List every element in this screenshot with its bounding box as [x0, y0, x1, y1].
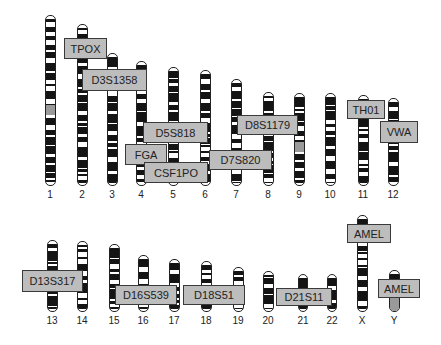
chromosome-band [46, 137, 55, 145]
chromosome-label: 21 [293, 315, 313, 326]
chromosome-band [358, 280, 367, 287]
chromosome-band [139, 272, 148, 279]
chromosome-band [264, 182, 273, 183]
chromosome-band [46, 118, 55, 125]
chromosome-label: 16 [133, 315, 153, 326]
str-locus-label: D21S11 [276, 288, 332, 306]
chromosome-band [46, 84, 55, 86]
chromosome-band [169, 144, 178, 150]
chromosome-label: 9 [289, 189, 309, 200]
chromosome-band [326, 182, 335, 183]
chromosome-1 [45, 15, 56, 186]
chromosome-band [359, 168, 368, 172]
chromosome-band [108, 162, 117, 171]
chromosome-band [78, 298, 87, 300]
chromosome-band [169, 105, 178, 110]
chromosome-band [234, 271, 243, 275]
chromosome-band [46, 165, 55, 172]
chromosome-band [295, 171, 304, 178]
chromosome-band [139, 307, 148, 309]
chromosome-band [169, 79, 178, 83]
chromosome-band [201, 145, 210, 147]
str-locus-label: D3S1358 [82, 69, 147, 91]
chromosome-band [108, 174, 117, 183]
chromosome-band [264, 136, 273, 141]
chromosome-band [264, 275, 273, 277]
chromosome-band [110, 248, 119, 258]
chromosome-band [232, 83, 241, 87]
chromosome-band [48, 251, 57, 261]
chromosome-band [201, 113, 210, 118]
chromosome-band [78, 160, 87, 168]
str-locus-label: D5S818 [143, 122, 208, 143]
chromosome-band [46, 146, 55, 154]
chromosome-band [108, 57, 117, 67]
chromosome-band [389, 102, 398, 107]
chromosome-band [328, 278, 336, 286]
chromosome-band [170, 305, 179, 309]
str-locus-label: TPOX [64, 38, 107, 59]
chromosome-label: 19 [228, 315, 248, 326]
chromosome-band [358, 252, 367, 254]
chromosome-band [202, 279, 211, 283]
chromosome-band [110, 274, 119, 280]
chromosome-band [108, 114, 117, 123]
chromosome-band [299, 278, 307, 288]
str-locus-label: D18S51 [183, 285, 245, 305]
chromosome-band [264, 96, 273, 98]
chromosome-label: 3 [102, 189, 122, 200]
chromosome-band [358, 306, 367, 309]
chromosome-band [358, 268, 367, 276]
chromosome-band [234, 308, 243, 309]
chromosome-band [264, 308, 273, 309]
chromosome-band [359, 142, 368, 151]
chromosome-band [48, 307, 57, 309]
chromosome-label: Y [384, 315, 404, 326]
chromosome-band [326, 161, 335, 169]
chromosome-band [359, 134, 368, 138]
chromosome-band [234, 277, 243, 281]
chromosome-band [169, 93, 178, 102]
chromosome-8 [263, 92, 274, 186]
chromosome-band [202, 273, 211, 275]
chromosome-20 [263, 271, 274, 312]
chromosome-band [48, 262, 57, 264]
chromosome-band [110, 307, 119, 309]
chromosome-band [264, 278, 273, 284]
chromosome-band [110, 259, 119, 264]
chromosome-band [264, 101, 273, 111]
chromosome-label: 11 [353, 189, 373, 200]
chromosome-label: 6 [195, 189, 215, 200]
str-locus-label: VWA [380, 121, 418, 143]
chromosome-band [359, 129, 368, 131]
chromosome-band [169, 151, 178, 153]
chromosome-band [78, 169, 87, 172]
chromosome-band [201, 92, 210, 99]
chromosome-band [78, 28, 87, 30]
chromosome-band [358, 258, 367, 260]
chromosome-band [295, 97, 304, 107]
chromosome-band [137, 94, 146, 99]
chromosome-band [110, 269, 119, 272]
chromosome-band [201, 84, 210, 90]
str-locus-label: D16S539 [115, 285, 177, 305]
chromosome-label: 22 [322, 315, 342, 326]
chromosome-band [78, 123, 87, 126]
chromosome-band [389, 177, 398, 182]
str-locus-label: TH01 [347, 100, 385, 119]
chromosome-band [46, 19, 55, 22]
chromosome-band [108, 143, 117, 147]
chromosome-label: 20 [258, 315, 278, 326]
str-locus-label: D8S1179 [237, 115, 298, 135]
chromosome-band [78, 103, 87, 111]
chromosome-band [326, 137, 335, 146]
chromosome-band [326, 106, 335, 110]
chromosome-band [46, 27, 55, 32]
chromosome-band [295, 154, 304, 160]
chromosome-band [170, 274, 179, 283]
chromosome-band [389, 146, 398, 150]
str-locus-label: AMEL [347, 224, 391, 243]
chromosome-band [264, 174, 273, 178]
chromosome-band [78, 245, 87, 247]
chromosome-band [232, 101, 241, 108]
